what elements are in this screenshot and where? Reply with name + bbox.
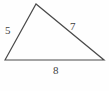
geometry-figure: 5 7 8 <box>0 0 109 91</box>
triangle-shape <box>0 0 109 91</box>
side-label-bottom: 8 <box>53 65 59 76</box>
side-label-right: 7 <box>70 21 76 32</box>
side-label-left: 5 <box>5 25 11 36</box>
triangle-outline <box>5 4 104 60</box>
